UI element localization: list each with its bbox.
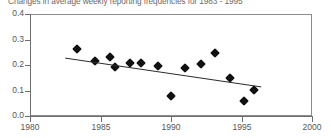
chart-container: Changes in average weekly reporting freq… — [0, 0, 331, 138]
y-tick — [25, 91, 30, 92]
y-tick-label: 0.2 — [2, 60, 24, 69]
y-tick — [25, 40, 30, 41]
y-tick — [25, 65, 30, 66]
x-tick-label: 2000 — [292, 122, 331, 132]
y-tick-label: 0.3 — [2, 35, 24, 44]
x-tick-label: 1980 — [10, 122, 50, 132]
x-tick-label: 1995 — [222, 122, 262, 132]
y-axis-line — [30, 14, 31, 117]
y-tick-label: 0.1 — [2, 86, 24, 95]
x-tick-label: 1990 — [151, 122, 191, 132]
x-tick-label: 1985 — [81, 122, 121, 132]
chart-title: Changes in average weekly reporting freq… — [8, 0, 328, 7]
y-tick-label: 0.4 — [2, 9, 24, 18]
y-tick — [25, 14, 30, 15]
y-tick-label: 0.0 — [2, 111, 24, 120]
